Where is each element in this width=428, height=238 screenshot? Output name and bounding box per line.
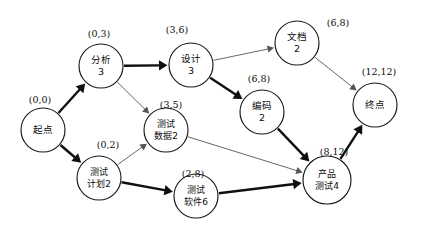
node-start[interactable]: 起点 (21, 108, 65, 152)
node-label-test-plan: 测试 (90, 166, 108, 177)
node-label-start: 起点 (33, 124, 53, 135)
edge-test-plan-to-test-data (118, 147, 143, 165)
edge-start-to-analysis (58, 89, 80, 113)
edge-analysis-to-test-data (117, 82, 145, 110)
arrowhead-test-data-to-product-test (295, 167, 302, 174)
edge-test-plan-to-test-software (122, 182, 166, 190)
node-label-coding: 编码 (252, 100, 272, 111)
node-duration-design: 3 (188, 65, 194, 76)
node-design[interactable]: 设计3 (169, 43, 213, 87)
node-duration-coding: 2 (259, 112, 265, 123)
node-test-software[interactable]: 测试软件6 (174, 174, 218, 218)
node-circle-test-plan (77, 156, 121, 200)
node-document[interactable]: 文档2 (275, 21, 319, 65)
edge-test-software-to-product-test (219, 184, 295, 193)
node-circle-test-data (144, 108, 188, 152)
node-analysis[interactable]: 分析3 (79, 44, 123, 88)
node-label-analysis: 分析 (91, 54, 111, 65)
time-label-document: (6,8) (327, 17, 350, 28)
arrowhead-design-to-document (267, 46, 274, 53)
edge-design-to-coding (210, 78, 236, 95)
node-label-end: 终点 (365, 99, 385, 110)
node-label-test-software: 测试 (187, 184, 205, 195)
time-label-test-software: (2,8) (182, 168, 205, 179)
node-coding[interactable]: 编码2 (240, 90, 284, 134)
edge-test-data-to-product-test (188, 137, 297, 171)
time-label-design: (3,6) (166, 24, 189, 35)
time-label-end: (12,12) (362, 66, 397, 77)
network-canvas: 起点分析3设计3文档2编码2终点测试数据2测试计划2测试软件6产品测试4 (0,… (0, 0, 428, 238)
node-duration-analysis: 3 (98, 66, 104, 77)
node-label-test-data: 测试 (157, 118, 175, 129)
time-label-product-test: (8,12) (320, 146, 349, 157)
time-labels-layer: (0,0)(0,3)(3,6)(6,8)(6,8)(12,12)(3,5)(0,… (29, 17, 397, 179)
nodes-layer: 起点分析3设计3文档2编码2终点测试数据2测试计划2测试软件6产品测试4 (21, 21, 397, 218)
time-label-analysis: (0,3) (88, 28, 111, 39)
node-test-plan[interactable]: 测试计划2 (77, 156, 121, 200)
edge-coding-to-product-test (278, 129, 305, 157)
time-label-test-plan: (0,2) (97, 139, 120, 150)
edge-start-to-test-plan (60, 145, 75, 158)
node-duration-product-test: 测试4 (315, 180, 339, 191)
node-end[interactable]: 终点 (353, 83, 397, 127)
node-duration-test-data: 数据2 (154, 130, 178, 141)
time-label-start: (0,0) (29, 94, 52, 105)
node-label-design: 设计 (181, 53, 201, 64)
node-duration-test-software: 软件6 (184, 196, 208, 207)
node-circle-product-test (303, 156, 351, 204)
node-duration-test-plan: 计划2 (87, 178, 111, 189)
node-label-product-test: 产品 (318, 168, 336, 179)
arrowhead-document-to-end (349, 84, 356, 91)
node-circle-test-software (174, 174, 218, 218)
edge-design-to-document (214, 49, 269, 60)
arrowhead-analysis-to-design (159, 60, 168, 70)
edge-document-to-end (315, 57, 352, 87)
time-label-coding: (6,8) (248, 73, 271, 84)
node-label-document: 文档 (287, 31, 307, 42)
node-product-test[interactable]: 产品测试4 (303, 156, 351, 204)
pert-network-diagram: 起点分析3设计3文档2编码2终点测试数据2测试计划2测试软件6产品测试4 (0,… (0, 0, 428, 238)
arrowhead-test-plan-to-test-software (164, 185, 173, 195)
node-duration-document: 2 (294, 43, 300, 54)
arrowhead-test-plan-to-test-data (140, 144, 147, 151)
node-test-data[interactable]: 测试数据2 (144, 108, 188, 152)
time-label-test-data: (3,5) (160, 99, 183, 110)
arrowhead-test-software-to-product-test (293, 179, 302, 189)
